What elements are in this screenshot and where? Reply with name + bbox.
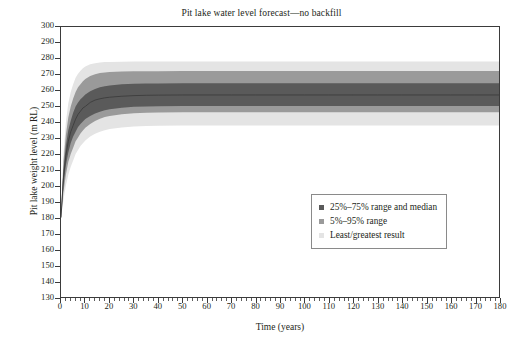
y-axis-tick-label: 160 (24, 245, 54, 254)
x-axis-minor-tick-mark (119, 298, 120, 301)
x-axis-minor-tick-mark (221, 298, 222, 301)
x-axis-tick-mark (329, 298, 330, 303)
x-axis-tick-mark (280, 298, 281, 303)
x-axis-minor-tick-mark (241, 298, 242, 301)
x-axis-minor-tick-mark (177, 298, 178, 301)
x-axis-minor-tick-mark (270, 298, 271, 301)
x-axis-minor-tick-mark (285, 298, 286, 301)
y-axis-tick-label: 300 (24, 21, 54, 30)
x-axis-minor-tick-mark (309, 298, 310, 301)
y-axis-tick-label: 150 (24, 261, 54, 270)
x-axis-minor-tick-mark (339, 298, 340, 301)
x-axis-minor-tick-mark (300, 298, 301, 301)
x-axis-minor-tick-mark (202, 298, 203, 301)
x-axis-tick-mark (158, 298, 159, 303)
x-axis-minor-tick-mark (275, 298, 276, 301)
x-axis-minor-tick-mark (407, 298, 408, 301)
legend-item: 5%–95% range (319, 214, 437, 228)
x-axis-minor-tick-mark (358, 298, 359, 301)
x-axis-minor-tick-mark (104, 298, 105, 301)
y-axis-tick-label: 240 (24, 117, 54, 126)
x-axis-minor-tick-mark (236, 298, 237, 301)
x-axis-minor-tick-mark (216, 298, 217, 301)
x-axis-minor-tick-mark (114, 298, 115, 301)
y-axis-tick-label: 180 (24, 213, 54, 222)
x-axis-minor-tick-mark (441, 298, 442, 301)
x-axis-minor-tick-mark (138, 298, 139, 301)
x-axis-tick-mark (500, 298, 501, 303)
x-axis-tick-mark (84, 298, 85, 303)
x-axis-minor-tick-mark (373, 298, 374, 301)
x-axis-minor-tick-mark (490, 298, 491, 301)
legend-item-label: Least/greatest result (330, 230, 405, 240)
x-axis-minor-tick-mark (251, 298, 252, 301)
x-axis-minor-tick-mark (461, 298, 462, 301)
x-axis-minor-tick-mark (163, 298, 164, 301)
x-axis-minor-tick-mark (466, 298, 467, 301)
x-axis-minor-tick-mark (417, 298, 418, 301)
x-axis-minor-tick-mark (363, 298, 364, 301)
x-axis-tick-mark (60, 298, 61, 303)
x-axis-minor-tick-mark (397, 298, 398, 301)
x-axis-minor-tick-mark (348, 298, 349, 301)
x-axis-title: Time (years) (60, 322, 500, 332)
x-axis-minor-tick-mark (192, 298, 193, 301)
y-axis-tick-label: 230 (24, 133, 54, 142)
x-axis-minor-tick-mark (324, 298, 325, 301)
x-axis-minor-tick-mark (344, 298, 345, 301)
x-axis-minor-tick-mark (392, 298, 393, 301)
x-axis-minor-tick-mark (388, 298, 389, 301)
x-axis-tick-mark (256, 298, 257, 303)
y-axis-tick-label: 290 (24, 37, 54, 46)
x-axis-minor-tick-mark (265, 298, 266, 301)
y-axis-tick-label: 210 (24, 165, 54, 174)
x-axis-tick-mark (182, 298, 183, 303)
x-axis-tick-mark (378, 298, 379, 303)
y-axis-tick-label: 250 (24, 101, 54, 110)
x-axis-tick-mark (451, 298, 452, 303)
y-axis-tick-label: 220 (24, 149, 54, 158)
x-axis-tick-label: 180 (480, 302, 520, 311)
x-axis-minor-tick-mark (187, 298, 188, 301)
x-axis-minor-tick-mark (319, 298, 320, 301)
x-axis-tick-mark (402, 298, 403, 303)
x-axis-minor-tick-mark (446, 298, 447, 301)
x-axis-minor-tick-mark (432, 298, 433, 301)
x-axis-tick-mark (207, 298, 208, 303)
legend-item: 25%–75% range and median (319, 200, 437, 214)
x-axis-minor-tick-mark (212, 298, 213, 301)
x-axis-minor-tick-mark (334, 298, 335, 301)
legend-item-label: 25%–75% range and median (330, 202, 437, 212)
uncertainty-bands (61, 27, 499, 297)
x-axis-minor-tick-mark (168, 298, 169, 301)
x-axis-minor-tick-mark (422, 298, 423, 301)
x-axis-minor-tick-mark (485, 298, 486, 301)
x-axis-minor-tick-mark (128, 298, 129, 301)
x-axis-minor-tick-mark (172, 298, 173, 301)
x-axis-tick-mark (133, 298, 134, 303)
x-axis-minor-tick-mark (412, 298, 413, 301)
x-axis-tick-mark (427, 298, 428, 303)
legend-swatch-icon (319, 205, 324, 210)
x-axis-minor-tick-mark (246, 298, 247, 301)
x-axis-minor-tick-mark (226, 298, 227, 301)
y-axis-tick-label: 260 (24, 85, 54, 94)
x-axis-tick-mark (353, 298, 354, 303)
x-axis-minor-tick-mark (94, 298, 95, 301)
x-axis-minor-tick-mark (75, 298, 76, 301)
legend-item-label: 5%–95% range (330, 216, 387, 226)
x-axis-minor-tick-mark (260, 298, 261, 301)
y-axis-tick-label: 170 (24, 229, 54, 238)
y-axis-tick-label: 280 (24, 53, 54, 62)
x-axis-minor-tick-mark (80, 298, 81, 301)
x-axis-minor-tick-mark (70, 298, 71, 301)
x-axis-tick-mark (304, 298, 305, 303)
x-axis-minor-tick-mark (471, 298, 472, 301)
legend-swatch-icon (319, 233, 324, 238)
y-axis-tick-label: 200 (24, 181, 54, 190)
x-axis-minor-tick-mark (148, 298, 149, 301)
x-axis-minor-tick-mark (368, 298, 369, 301)
x-axis-minor-tick-mark (290, 298, 291, 301)
y-axis-tick-label: 140 (24, 277, 54, 286)
x-axis-tick-mark (231, 298, 232, 303)
